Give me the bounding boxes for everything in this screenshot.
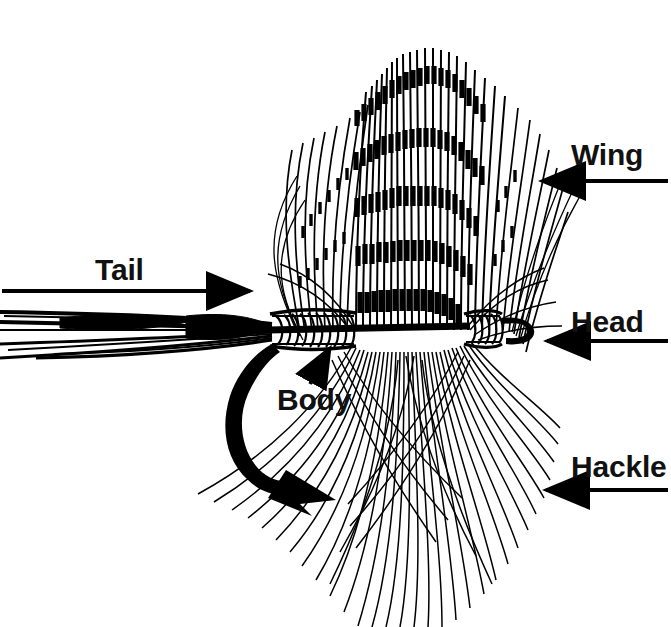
label-body: Body — [277, 385, 351, 415]
label-hackle: Hackle — [571, 452, 667, 482]
figure-canvas: Wing Head Hackle Tail Body — [0, 0, 671, 627]
label-head: Head — [571, 307, 644, 337]
label-wing: Wing — [571, 140, 643, 170]
label-tail: Tail — [95, 255, 144, 285]
